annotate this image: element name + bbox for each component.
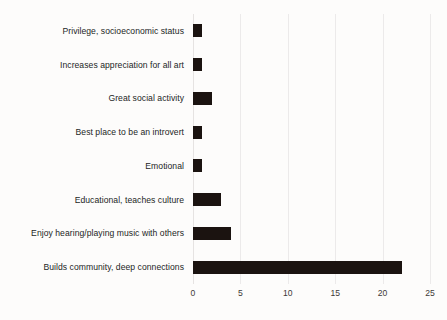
category-label: Privilege, socioeconomic status: [0, 14, 189, 48]
plot-area: [193, 14, 430, 284]
bar-row: [193, 14, 430, 48]
bar-row: [193, 250, 430, 284]
bar: [193, 261, 402, 274]
value-axis: 0510152025: [193, 288, 430, 308]
category-label: Emotional: [0, 149, 189, 183]
category-label: Increases appreciation for all art: [0, 48, 189, 82]
bar-row: [193, 115, 430, 149]
x-tick-label: 15: [330, 288, 340, 298]
x-tick-label: 10: [283, 288, 293, 298]
bar-row: [193, 183, 430, 217]
x-tick-label: 20: [378, 288, 388, 298]
gridline-25: [430, 14, 431, 284]
category-label: Great social activity: [0, 82, 189, 116]
bar: [193, 227, 231, 240]
bar-series: [193, 14, 430, 284]
bar-row: [193, 149, 430, 183]
category-label: Enjoy hearing/playing music with others: [0, 217, 189, 251]
x-tick-label: 0: [191, 288, 196, 298]
bar: [193, 193, 221, 206]
bar-row: [193, 82, 430, 116]
bar-row: [193, 48, 430, 82]
category-label: Educational, teaches culture: [0, 183, 189, 217]
bar: [193, 24, 202, 37]
bar: [193, 92, 212, 105]
x-tick-label: 5: [238, 288, 243, 298]
bar: [193, 159, 202, 172]
category-label: Builds community, deep connections: [0, 250, 189, 284]
bar-row: [193, 217, 430, 251]
bar: [193, 58, 202, 71]
category-label: Best place to be an introvert: [0, 115, 189, 149]
bar-chart: Privilege, socioeconomic statusIncreases…: [0, 0, 447, 320]
x-tick-label: 25: [425, 288, 435, 298]
bar: [193, 126, 202, 139]
category-axis-labels: Privilege, socioeconomic statusIncreases…: [0, 14, 189, 284]
